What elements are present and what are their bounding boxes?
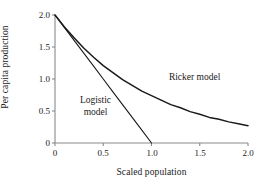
chart-figure: Per capita production 2.0 1.5 1.0 0.5 0 …: [0, 0, 266, 186]
plot-area: Ricker model Logistic model: [0, 0, 266, 186]
series-line-logistic-model: [55, 15, 152, 143]
series-annotation-logistic-model-line2: model: [84, 107, 108, 117]
series-annotation-ricker-model: Ricker model: [169, 72, 221, 82]
series-annotation-logistic-model-line1: Logistic: [80, 95, 111, 105]
